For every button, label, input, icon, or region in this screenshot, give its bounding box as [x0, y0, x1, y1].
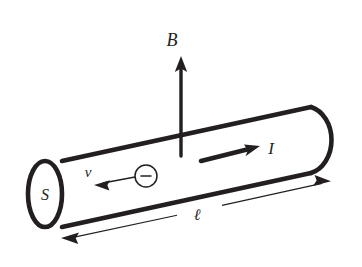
- physics-figure: B I S v ℓ: [0, 0, 362, 267]
- length-label: ℓ: [194, 206, 201, 223]
- drift-velocity-label: v: [85, 164, 92, 180]
- negative-charge-carrier: [135, 165, 157, 187]
- cross-section-label: S: [41, 186, 49, 203]
- magnetic-field-label: B: [167, 30, 178, 50]
- conductor-field-diagram: B I S v ℓ: [0, 0, 362, 267]
